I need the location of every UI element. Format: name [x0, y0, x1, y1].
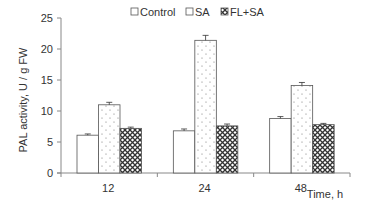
bar-control-48 [270, 118, 292, 173]
x-tick-label: 48 [295, 182, 307, 194]
bar-control-12 [77, 135, 99, 173]
y-tick-label: 0 [47, 167, 53, 179]
y-tick-label: 25 [41, 12, 53, 24]
legend-label-fl-sa: FL+SA [230, 6, 265, 18]
y-axis-title: PAL activity, U / g FW [17, 47, 29, 153]
x-tick-label: 24 [198, 182, 210, 194]
legend-swatch-control [131, 8, 138, 15]
legend-item-control: Control [131, 6, 175, 18]
bar-sa-24 [195, 40, 217, 173]
y-tick-label: 15 [41, 74, 53, 86]
legend-swatch-sa [186, 8, 193, 15]
bars [77, 35, 334, 173]
legend-label-control: Control [140, 6, 175, 18]
x-axis-title: Time, h [307, 188, 343, 200]
bar-control-24 [173, 131, 195, 173]
legend-item-fl-sa: FL+SA [221, 6, 265, 18]
bar-chart: PAL activity, U / g FW 0510152025 122448… [0, 0, 372, 207]
y-tick-label: 20 [41, 43, 53, 55]
bar-sa-12 [99, 105, 121, 173]
legend: Control SA FL+SA [131, 6, 265, 18]
legend-swatch-fl-sa [221, 8, 228, 15]
y-tick-label: 10 [41, 105, 53, 117]
bar-sa-48 [291, 86, 313, 173]
y-tick-label: 5 [47, 136, 53, 148]
y-axis: 0510152025 [41, 12, 61, 179]
bar-fl-sa-12 [120, 128, 142, 173]
legend-item-sa: SA [186, 6, 210, 18]
bar-fl-sa-24 [216, 126, 238, 173]
x-tick-label: 12 [102, 182, 114, 194]
legend-label-sa: SA [195, 6, 210, 18]
bar-fl-sa-48 [313, 125, 335, 173]
